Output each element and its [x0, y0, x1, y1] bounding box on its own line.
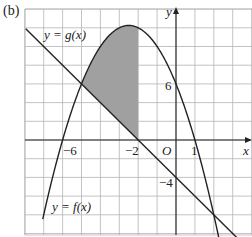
- x-tick-label-neg2: −2: [125, 144, 139, 157]
- shaded-region: [82, 25, 139, 140]
- y-tick-label-neg4: −4: [159, 176, 173, 189]
- y-axis-label: y: [166, 5, 172, 18]
- x-tick-label-1: 1: [191, 144, 198, 157]
- curve-label-f: y = f(x): [52, 200, 91, 213]
- curve-label-g: y = g(x): [44, 28, 86, 41]
- x-axis-label: x: [243, 144, 249, 157]
- x-tick-label-neg6: −6: [63, 144, 77, 157]
- subfigure-label: (b): [3, 4, 19, 18]
- y-tick-label-6: 6: [165, 79, 172, 92]
- y-axis-arrow-icon: [173, 7, 179, 14]
- graph-figure: [0, 0, 252, 237]
- origin-label: O: [162, 144, 171, 157]
